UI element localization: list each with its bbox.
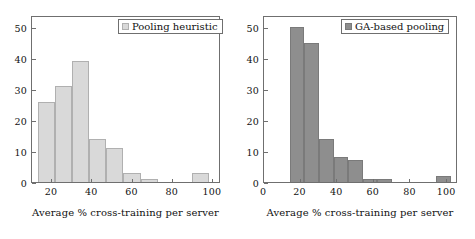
x-axis-tick (373, 179, 374, 183)
y-axis-tick (264, 59, 268, 60)
y-axis-tick-label: 50 (3, 23, 27, 34)
histogram-figure: 0102030405020406080100 Average % cross-t… (0, 0, 475, 239)
y-axis-tick-label: 10 (235, 147, 259, 158)
histogram-bar (319, 139, 334, 182)
x-axis-tick (263, 179, 264, 183)
y-axis-tick-label: 10 (3, 147, 27, 158)
y-axis-tick-label: 30 (3, 85, 27, 96)
x-axis-tick (446, 179, 447, 183)
y-axis-tick-label: 20 (3, 116, 27, 127)
y-axis-tick-label: 0 (3, 178, 27, 189)
chart-panel-pooling-heuristic: 0102030405020406080100 Average % cross-t… (0, 0, 237, 239)
y-axis-tick-label: 30 (235, 85, 259, 96)
x-axis-tick (132, 179, 133, 183)
histogram-bar (141, 179, 158, 182)
plot-area-left (31, 16, 220, 183)
histogram-bar (290, 27, 305, 182)
histogram-bar (363, 179, 378, 182)
legend-label-right: GA-based pooling (355, 21, 444, 32)
y-axis-tick-label: 50 (235, 23, 259, 34)
x-axis-tick-label: 60 (367, 186, 380, 197)
x-axis-tick-label: 40 (85, 186, 98, 197)
histogram-bar (377, 179, 392, 182)
histogram-bars-right (264, 17, 456, 182)
chart-panel-ga-based-pooling: 01020304050020406080100 Average % cross-… (237, 0, 474, 239)
y-axis-tick (264, 28, 268, 29)
y-axis-tick (264, 183, 268, 184)
histogram-bar (106, 148, 123, 182)
y-axis-tick-label: 0 (235, 178, 259, 189)
x-axis-tick (212, 179, 213, 183)
y-axis-tick (264, 152, 268, 153)
legend-swatch-icon-left (122, 23, 129, 30)
y-axis-tick (32, 183, 36, 184)
x-axis-tick (336, 179, 337, 183)
histogram-bar (436, 176, 451, 182)
legend-swatch-icon-right (345, 23, 352, 30)
y-axis-tick-label: 40 (3, 54, 27, 65)
x-axis-tick-label: 20 (293, 186, 306, 197)
x-axis-tick-label: 100 (203, 186, 222, 197)
x-axis-tick-label: 60 (125, 186, 138, 197)
x-axis-tick (409, 179, 410, 183)
legend-left: Pooling heuristic (118, 19, 223, 34)
histogram-bar (38, 102, 55, 182)
x-axis-title-left: Average % cross-training per server (31, 207, 220, 218)
y-axis-tick (32, 28, 36, 29)
histogram-bars-left (32, 17, 219, 182)
x-axis-tick-label: 20 (45, 186, 58, 197)
histogram-bar (348, 160, 363, 182)
y-axis-tick (264, 90, 268, 91)
legend-right: GA-based pooling (341, 19, 449, 34)
x-axis-tick (51, 179, 52, 183)
x-axis-title-right: Average % cross-training per server (263, 207, 457, 218)
y-axis-tick-label: 40 (235, 54, 259, 65)
x-axis-tick-label: 100 (437, 186, 456, 197)
histogram-bar (72, 61, 89, 182)
y-axis-tick-label: 20 (235, 116, 259, 127)
y-axis-tick (32, 90, 36, 91)
y-axis-tick (32, 121, 36, 122)
plot-area-right (263, 16, 457, 183)
x-axis-tick-label: 0 (260, 186, 266, 197)
x-axis-tick-label: 80 (403, 186, 416, 197)
legend-label-left: Pooling heuristic (132, 21, 218, 32)
histogram-bar (55, 86, 72, 182)
x-axis-tick (300, 179, 301, 183)
histogram-bar (89, 139, 106, 182)
y-axis-tick (32, 152, 36, 153)
x-axis-tick-label: 80 (165, 186, 178, 197)
x-axis-tick (172, 179, 173, 183)
x-axis-tick-label: 40 (330, 186, 343, 197)
histogram-bar (192, 173, 209, 182)
x-axis-tick (91, 179, 92, 183)
histogram-bar (304, 43, 319, 182)
y-axis-tick (264, 121, 268, 122)
y-axis-tick (32, 59, 36, 60)
